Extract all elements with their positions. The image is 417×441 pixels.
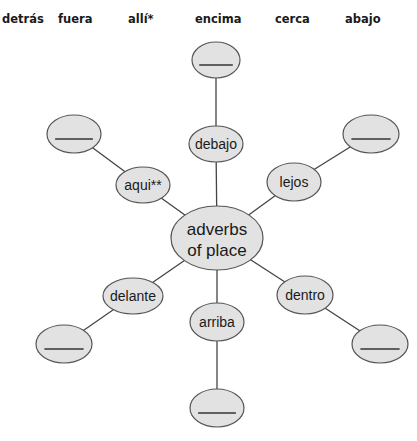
- spoke-label: arriba: [199, 314, 235, 330]
- blank-node-upper-left[interactable]: [47, 115, 101, 153]
- spoke-node-debajo: debajo: [189, 126, 243, 162]
- spoke-label: lejos: [280, 174, 309, 190]
- spoke-label: delante: [110, 288, 156, 304]
- node-ellipse: [192, 42, 240, 78]
- blank-node-lower-right[interactable]: [352, 325, 408, 363]
- node-ellipse: [190, 389, 244, 427]
- node-ellipse: [343, 115, 399, 153]
- spoke-node-arriba: arriba: [190, 303, 244, 341]
- blank-node-lower-left[interactable]: [36, 325, 92, 363]
- spoke-label: debajo: [195, 136, 237, 152]
- spoke-node-aqui: aqui**: [116, 167, 170, 203]
- center-node-adverbs-of-place: adverbsof place: [171, 206, 263, 270]
- blank-node-bottom[interactable]: [190, 389, 244, 427]
- center-label-line1: adverbs: [187, 220, 247, 239]
- blank-node-upper-right[interactable]: [343, 115, 399, 153]
- spoke-label: dentro: [285, 287, 325, 303]
- blank-node-top[interactable]: [192, 42, 240, 78]
- adverbs-of-place-web-diagram: adverbsof placedebajoaqui**lejosdelanted…: [0, 0, 417, 441]
- node-ellipse: [352, 325, 408, 363]
- node-ellipse: [47, 115, 101, 153]
- spoke-node-lejos: lejos: [267, 163, 321, 201]
- diagram-nodes: adverbsof placedebajoaqui**lejosdelanted…: [36, 42, 408, 427]
- spoke-node-delante: delante: [103, 278, 163, 314]
- spoke-node-dentro: dentro: [277, 276, 333, 314]
- node-ellipse: [36, 325, 92, 363]
- center-label-line2: of place: [187, 241, 247, 260]
- spoke-label: aqui**: [124, 177, 162, 193]
